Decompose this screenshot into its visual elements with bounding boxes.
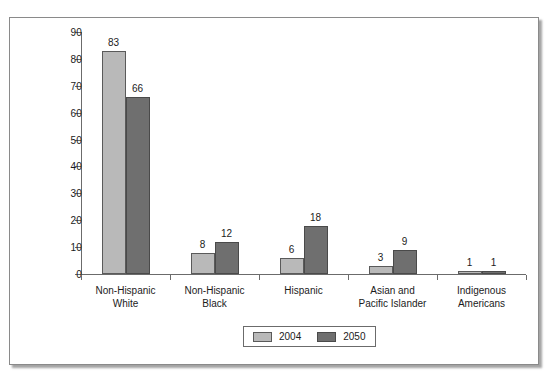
y-axis-tick-label: 0 [28, 269, 82, 280]
bar-value-label: 9 [402, 236, 408, 247]
bar-group: 812 [191, 242, 239, 274]
bar-group: 618 [280, 226, 328, 274]
y-axis-tick-label: 70 [28, 80, 82, 91]
x-axis-category-label: IndigenousAmericans [427, 284, 537, 310]
category-label-line: Black [160, 297, 270, 310]
category-label-line: Americans [427, 297, 537, 310]
x-axis-tick-mark [437, 275, 438, 280]
y-axis-tick-label: 80 [28, 53, 82, 64]
chart-figure-frame: 0102030405060708090 83668126183911 Non-H… [9, 17, 539, 365]
y-axis-tick-label: 60 [28, 107, 82, 118]
bar-2050[interactable]: 66 [126, 97, 150, 274]
x-axis-tick-mark [259, 275, 260, 280]
bar-2004[interactable]: 3 [369, 266, 393, 274]
bar-2004[interactable]: 1 [458, 271, 482, 274]
bar-2050[interactable]: 18 [304, 226, 328, 274]
bar-group: 8366 [102, 51, 150, 274]
legend-entry-2004[interactable]: 2004 [253, 331, 301, 342]
bar-group: 39 [369, 250, 417, 274]
bar-2050[interactable]: 9 [393, 250, 417, 274]
bar-value-label: 83 [108, 37, 119, 48]
y-axis-tick-label: 90 [28, 27, 82, 38]
bar-value-label: 3 [378, 252, 384, 263]
bar-value-label: 18 [310, 212, 321, 223]
y-axis-tick-label: 10 [28, 242, 82, 253]
bar-2050[interactable]: 12 [215, 242, 239, 274]
bar-chart-plot-area: 0102030405060708090 83668126183911 Non-H… [10, 18, 540, 366]
bar-group: 11 [458, 271, 506, 274]
x-axis-tick-mark [526, 275, 527, 280]
bar-2004[interactable]: 6 [280, 258, 304, 274]
category-label-line: Indigenous [427, 284, 537, 297]
x-axis-line [81, 274, 526, 275]
y-axis-tick-label: 40 [28, 161, 82, 172]
x-axis-tick-mark [348, 275, 349, 280]
legend-swatch [317, 332, 336, 342]
bar-value-label: 12 [221, 228, 232, 239]
y-axis-tick-label: 20 [28, 215, 82, 226]
bar-value-label: 1 [467, 257, 473, 268]
chart-legend: 20042050 [243, 326, 376, 347]
legend-swatch [253, 332, 272, 342]
bar-value-label: 66 [132, 83, 143, 94]
bar-value-label: 1 [491, 257, 497, 268]
x-axis-tick-mark [81, 275, 82, 280]
y-axis-tick-label: 50 [28, 134, 82, 145]
bar-value-label: 8 [200, 239, 206, 250]
bar-2004[interactable]: 83 [102, 51, 126, 274]
y-axis-line [81, 32, 82, 275]
legend-label: 2004 [279, 331, 301, 342]
y-axis-tick-label: 30 [28, 188, 82, 199]
x-axis-tick-mark [170, 275, 171, 280]
bar-2050[interactable]: 1 [482, 271, 506, 274]
legend-entry-2050[interactable]: 2050 [317, 331, 365, 342]
bar-value-label: 6 [289, 244, 295, 255]
legend-label: 2050 [343, 331, 365, 342]
bar-2004[interactable]: 8 [191, 253, 215, 275]
